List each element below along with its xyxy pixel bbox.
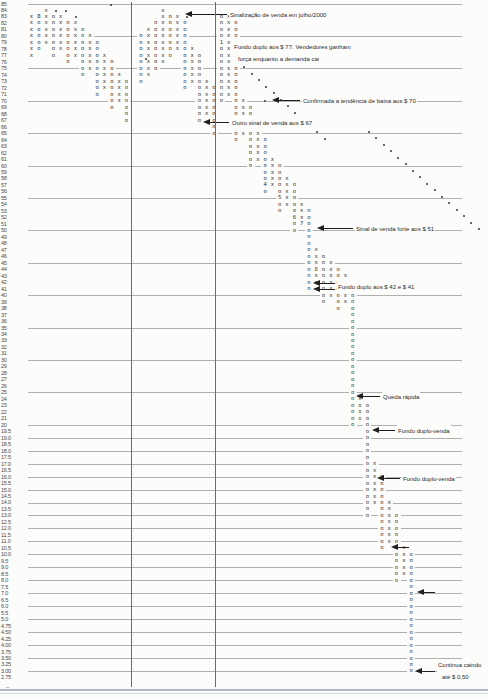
axis-price-label: 82	[1, 20, 21, 26]
axis-price-label: 3.00	[1, 668, 21, 674]
annotation-text: Sinalização de venda em julho/2000	[229, 9, 327, 21]
axis-price-label: 62	[1, 150, 21, 156]
annotation-text-line: Fundo duplo-venda	[398, 425, 450, 437]
pf-o-glyph: o	[181, 84, 189, 91]
gridline-horizontal	[28, 645, 462, 646]
gridline-horizontal	[28, 593, 462, 594]
axis-price-label: 64	[1, 137, 21, 143]
axis-price-label: 78	[1, 46, 21, 52]
pf-o-glyph: o	[320, 298, 328, 305]
axis-price-label: 60	[1, 163, 21, 169]
axis-price-label: 32	[1, 344, 21, 350]
gridline-horizontal	[28, 490, 462, 491]
axis-price-label: 15.0	[1, 487, 21, 493]
trendline-dot	[448, 202, 450, 204]
axis-price-label: 67	[1, 117, 21, 123]
axis-price-label: 11.0	[1, 538, 21, 544]
trendline-dot	[273, 92, 275, 94]
trendline-dot	[390, 150, 392, 152]
axis-price-label: 84	[1, 7, 21, 13]
annotation-text-line: Continua caindo	[438, 659, 481, 671]
axis-price-label: 43	[1, 273, 21, 279]
trendline-dot	[412, 170, 414, 172]
axis-price-label: 24	[1, 396, 21, 402]
pf-o-glyph: o	[137, 78, 145, 85]
axis-price-label: 47	[1, 247, 21, 253]
annotation-text: Fundo duplo aos $ 42 e $ 41	[337, 281, 415, 293]
pf-o-glyph: o	[79, 71, 87, 78]
axis-price-label: 6.5	[1, 597, 21, 603]
annotation-text: Fundo duplo-venda	[402, 473, 456, 485]
bottom-rule	[0, 693, 488, 694]
annotation-text-line: força enquanto a demanda cai	[234, 53, 351, 65]
axis-price-label: 41	[1, 286, 21, 292]
trendline-dot	[478, 228, 480, 230]
pf-o-glyph: o	[276, 207, 284, 214]
pf-o-glyph: o	[261, 188, 269, 195]
axis-price-label: 52	[1, 214, 21, 220]
axis-price-label: 8.5	[1, 571, 21, 577]
axis-price-label: 69	[1, 104, 21, 110]
axis-price-label: 54	[1, 201, 21, 207]
axis-price-label: 68	[1, 111, 21, 117]
annotation-arrow-line	[423, 592, 435, 593]
axis-price-label: 28	[1, 370, 21, 376]
annotation-arrow-line	[319, 289, 335, 290]
trendline-dot	[258, 79, 260, 81]
chart-dot	[264, 100, 266, 102]
pf-o-glyph: o	[93, 91, 101, 98]
annotation-arrow-line	[383, 478, 400, 479]
annotation-text-line: Queda rápida	[383, 391, 419, 403]
year-divider-line	[131, 2, 132, 687]
trendline-dot	[251, 73, 253, 75]
gridline-horizontal	[28, 4, 462, 5]
axis-price-label: 39	[1, 299, 21, 305]
axis-price-label: 81	[1, 26, 21, 32]
axis-price-label: 4.75	[1, 623, 21, 629]
bottom-rule	[0, 689, 488, 691]
axis-price-label: 46	[1, 253, 21, 259]
gridline-horizontal	[28, 198, 462, 199]
axis-price-label: 7.5	[1, 584, 21, 590]
chart-dot	[65, 10, 67, 12]
axis-price-label: 80	[1, 33, 21, 39]
trendline-dot	[397, 157, 399, 159]
annotation-arrow-line	[319, 283, 335, 284]
axis-price-label: 9.0	[1, 564, 21, 570]
pf-o-glyph: o	[108, 104, 116, 111]
axis-price-label: 72	[1, 85, 21, 91]
pf-o-glyph: o	[378, 544, 386, 551]
trendline-dot	[470, 222, 472, 224]
trendline-dot	[368, 131, 370, 133]
trendline-dot	[426, 183, 428, 185]
axis-price-label: 79	[1, 39, 21, 45]
trendline-dot	[441, 196, 443, 198]
axis-price-label: 15.5	[1, 480, 21, 486]
annotation-arrow-line	[209, 122, 229, 123]
pf-o-glyph: o	[334, 305, 342, 312]
annotation-arrow-line	[278, 100, 300, 101]
trendline-dot	[419, 176, 421, 178]
annotation-text-line: até $ 0,50	[438, 671, 481, 683]
axis-price-label: 18.5	[1, 441, 21, 447]
axis-price-label: 3.25	[1, 661, 21, 667]
axis-price-label: 36	[1, 318, 21, 324]
axis-price-label: 30	[1, 357, 21, 363]
axis-price-label: 50	[1, 227, 21, 233]
axis-price-label: 19.0	[1, 435, 21, 441]
gridline-horizontal	[28, 451, 462, 452]
annotation-arrow-line	[323, 228, 353, 229]
gridline-horizontal	[28, 166, 462, 167]
axis-price-label: 31	[1, 350, 21, 356]
annotation-text-line: Outro sinal de venda aos $ 67	[232, 117, 312, 129]
pf-chart-figure: 8584838281807978777675747372717069686766…	[0, 0, 488, 698]
gridline-horizontal	[28, 360, 462, 361]
gridline-horizontal	[28, 606, 462, 607]
axis-price-label: 10.0	[1, 551, 21, 557]
axis-price-label: 7.0	[1, 590, 21, 596]
axis-price-label: 75	[1, 65, 21, 71]
axis-price-label: 33	[1, 337, 21, 343]
pf-o-glyph: o	[407, 667, 415, 674]
annotation-text: Queda rápida	[382, 391, 420, 403]
trendline-dot	[324, 138, 326, 140]
